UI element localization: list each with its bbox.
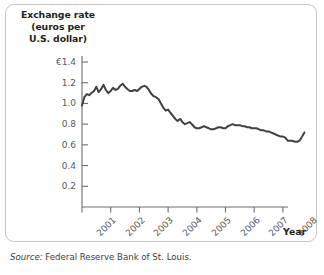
y-axis-title-line-1: Exchange rate xyxy=(12,9,104,21)
y-axis-title: Exchange rate (euros per U.S. dollar) xyxy=(12,9,104,46)
y-tick-label: 0.6 xyxy=(28,140,76,150)
figure-container: Exchange rate (euros per U.S. dollar) €1… xyxy=(0,0,324,275)
y-tick-label: 1.0 xyxy=(28,98,76,108)
y-tick-label: 0.2 xyxy=(28,181,76,191)
y-tick-label: 0.4 xyxy=(28,161,76,171)
x-axis-title: Year xyxy=(283,226,306,237)
source-note: Source: Federal Reserve Bank of St. Loui… xyxy=(10,252,192,262)
y-tick-label: €1.4 xyxy=(28,57,76,67)
y-tick-label: 1.2 xyxy=(28,78,76,88)
y-tick-label: 0.8 xyxy=(28,119,76,129)
y-axis-title-line-3: U.S. dollar) xyxy=(12,33,104,45)
source-label: Source: xyxy=(10,252,43,262)
y-axis-title-line-2: (euros per xyxy=(12,21,104,33)
source-value: Federal Reserve Bank of St. Louis. xyxy=(45,252,191,262)
